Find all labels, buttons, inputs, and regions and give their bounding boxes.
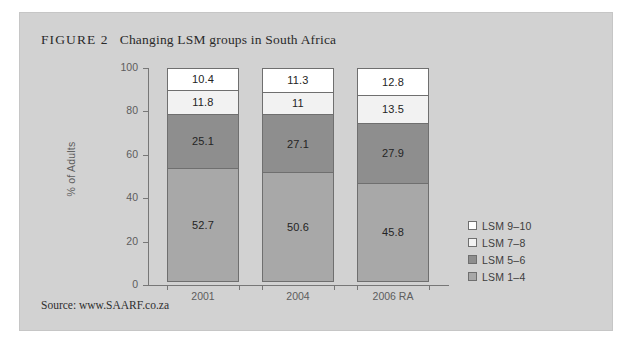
legend-swatch-icon [468,221,477,230]
bar-segment-value: 27.9 [382,147,404,159]
bar-segment-value: 13.5 [382,103,404,115]
y-tick-label: 80 [126,104,138,116]
stacked-bar[interactable]: 12.813.527.945.8 [357,68,429,285]
legend-label: LSM 5–6 [482,254,525,266]
legend-item[interactable]: LSM 1–4 [468,269,531,284]
y-tick-label: 20 [126,235,138,247]
bar-segment-value: 12.8 [382,76,404,88]
bar-segment[interactable]: 52.7 [167,168,239,282]
bar-segment[interactable]: 12.8 [357,68,429,96]
bar-segment-value: 11.8 [192,96,213,108]
y-tick-label: 100 [120,61,138,73]
bar-segment[interactable]: 45.8 [357,183,429,282]
legend-swatch-icon [468,272,477,281]
figure-panel: FIGURE 2Changing LSM groups in South Afr… [20,13,612,330]
bar-segment-value: 52.7 [192,219,214,231]
y-tick: 60 [143,155,148,156]
bar-segment-value: 10.4 [192,73,214,85]
stacked-bar[interactable]: 11.31127.150.6 [262,68,334,285]
legend-swatch-icon [468,238,477,247]
plot-area: 020406080100 10.411.825.152.711.31127.15… [148,68,448,285]
bar-segment[interactable]: 11 [262,92,334,116]
y-tick-label: 40 [126,191,138,203]
legend-label: LSM 7–8 [482,237,525,249]
bar-segment[interactable]: 25.1 [167,114,239,168]
legend-item[interactable]: LSM 5–6 [468,252,531,267]
y-axis-title: % of Adults [65,109,77,229]
bar-segment-value: 25.1 [192,135,214,147]
legend-label: LSM 1–4 [482,271,525,283]
y-axis-line [148,68,149,285]
bar-segment[interactable]: 50.6 [262,172,334,282]
x-axis-line [148,285,449,286]
y-tick: 100 [143,68,148,69]
y-tick: 80 [143,111,148,112]
bar-segment-value: 45.8 [382,226,404,238]
bar-segment[interactable]: 11.8 [167,90,239,116]
legend-item[interactable]: LSM 7–8 [468,235,531,250]
y-tick-label: 0 [132,278,138,290]
chart-legend: LSM 9–10LSM 7–8LSM 5–6LSM 1–4 [468,218,531,286]
legend-label: LSM 9–10 [482,220,531,232]
bar-segment[interactable]: 11.3 [262,68,334,93]
bar-segment[interactable]: 27.1 [262,114,334,173]
stacked-bar[interactable]: 10.411.825.152.7 [167,68,239,285]
legend-swatch-icon [468,255,477,264]
bar-segment[interactable]: 27.9 [357,123,429,184]
x-axis-label: 2006 RA [338,290,448,302]
y-tick: 40 [143,198,148,199]
bar-segment-value: 11 [292,97,304,109]
bar-segment[interactable]: 13.5 [357,95,429,124]
bar-segment-value: 11.3 [287,74,308,86]
bar-segment-value: 27.1 [287,138,309,150]
y-tick: 20 [143,242,148,243]
figure-source: Source: www.SAARF.co.za [41,299,169,311]
bar-segment-value: 50.6 [287,221,309,233]
y-tick-label: 60 [126,148,138,160]
stacked-bar-chart: % of Adults 020406080100 10.411.825.152.… [20,13,612,330]
x-axis-label: 2004 [243,290,353,302]
y-tick: 0 [143,285,148,286]
legend-item[interactable]: LSM 9–10 [468,218,531,233]
bar-segment[interactable]: 10.4 [167,68,239,91]
